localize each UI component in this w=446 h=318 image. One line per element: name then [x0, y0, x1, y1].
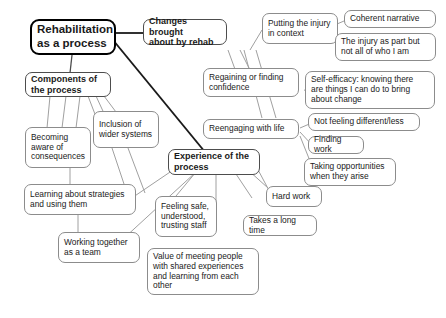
- node-components-label: Components of the process: [31, 74, 97, 95]
- node-becoming-aware-label: Becoming aware of consequences: [31, 133, 85, 163]
- node-working-together-label: Working together as a team: [64, 238, 128, 258]
- node-taking-opportunities[interactable]: Taking opportunities when they arise: [304, 158, 396, 186]
- node-inclusion[interactable]: Inclusion of wider systems: [93, 111, 159, 148]
- node-reengaging[interactable]: Reengaging with life: [203, 119, 299, 139]
- edge-changes-putting: [250, 30, 262, 50]
- node-regaining-confidence[interactable]: Regaining or finding confidence: [203, 68, 299, 97]
- node-finding-work[interactable]: Finding work: [308, 136, 364, 154]
- mind-map-diagram: Rehabilitation as a process Components o…: [0, 0, 446, 318]
- node-root[interactable]: Rehabilitation as a process: [30, 19, 116, 55]
- node-experience[interactable]: Experience of the process: [168, 149, 260, 175]
- node-becoming-aware[interactable]: Becoming aware of consequences: [25, 127, 91, 168]
- node-hard-work-label: Hard work: [272, 192, 310, 202]
- node-taking-opportunities-label: Taking opportunities when they arise: [310, 162, 385, 182]
- edge-components-becoming: [47, 96, 50, 128]
- node-not-feeling-different[interactable]: Not feeling different/less: [308, 113, 420, 131]
- node-value-meeting-label: Value of meeting people with shared expe…: [153, 252, 243, 292]
- node-inclusion-label: Inclusion of wider systems: [99, 120, 152, 140]
- node-self-efficacy-label: Self-efficacy: knowing there are things …: [311, 75, 413, 105]
- node-learning-strategies-label: Learning about strategies and using them: [30, 190, 125, 210]
- node-changes[interactable]: Changes brought about by rehab: [143, 19, 227, 45]
- node-putting-injury[interactable]: Putting the injury in context: [262, 13, 338, 44]
- edge-components-learning: [76, 96, 80, 128]
- edge-root-components: [70, 55, 72, 73]
- edge-components-becoming-2: [62, 96, 66, 128]
- node-changes-label: Changes brought about by rehab: [149, 16, 221, 48]
- node-feeling-safe-label: Feeling safe, understood, trusting staff: [161, 202, 209, 232]
- edge-experience-takes: [236, 174, 252, 198]
- node-finding-work-label: Finding work: [314, 135, 358, 155]
- node-not-feeling-different-label: Not feeling different/less: [314, 117, 404, 127]
- node-components[interactable]: Components of the process: [25, 72, 111, 97]
- node-coherent-narrative[interactable]: Coherent narrative: [344, 10, 436, 28]
- node-takes-long-time[interactable]: Takes a long time: [243, 215, 317, 236]
- node-value-meeting[interactable]: Value of meeting people with shared expe…: [147, 248, 259, 295]
- node-putting-injury-label: Putting the injury in context: [268, 19, 330, 39]
- node-injury-part-label: The injury as part but not all of who I …: [341, 37, 420, 57]
- node-self-efficacy[interactable]: Self-efficacy: knowing there are things …: [305, 71, 435, 109]
- node-regaining-confidence-label: Regaining or finding confidence: [209, 73, 284, 93]
- node-coherent-narrative-label: Coherent narrative: [350, 14, 419, 24]
- node-root-label: Rehabilitation as a process: [37, 23, 113, 50]
- node-experience-label: Experience of the process: [174, 151, 249, 172]
- node-injury-part[interactable]: The injury as part but not all of who I …: [335, 33, 436, 61]
- node-takes-long-time-label: Takes a long time: [249, 216, 311, 236]
- node-reengaging-label: Reengaging with life: [209, 124, 284, 134]
- node-learning-strategies[interactable]: Learning about strategies and using them: [24, 184, 136, 215]
- edge-experience-feeling: [176, 172, 196, 196]
- node-feeling-safe[interactable]: Feeling safe, understood, trusting staff: [155, 196, 217, 237]
- node-working-together[interactable]: Working together as a team: [58, 232, 140, 263]
- node-hard-work[interactable]: Hard work: [266, 186, 322, 207]
